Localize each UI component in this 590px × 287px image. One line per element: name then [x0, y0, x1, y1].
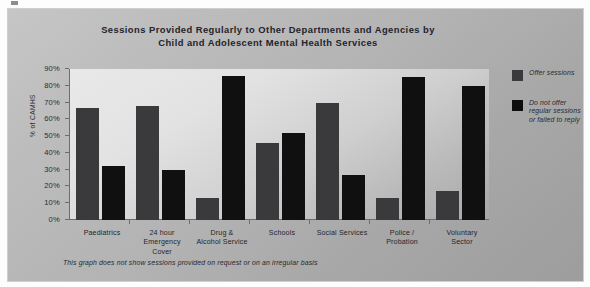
- bar-group: VoluntarySector: [429, 69, 489, 220]
- x-axis-tick: [189, 220, 190, 224]
- x-axis-category-label: VoluntarySector: [425, 229, 499, 248]
- legend-swatch-do-not-offer: [512, 100, 523, 111]
- y-axis-tick-label: 50%: [44, 131, 60, 140]
- legend-label-do-not-offer: Do not offer regular sessions or failed …: [529, 99, 584, 125]
- legend-swatch-offer-sessions: [512, 70, 523, 81]
- x-axis-category-label-line: Police /: [390, 229, 414, 237]
- legend-item-offer-sessions: Offer sessions: [512, 69, 584, 78]
- bar: [136, 106, 159, 220]
- y-axis-tick-label: 60%: [44, 114, 60, 123]
- x-axis-category-label-line: Emergency: [143, 238, 180, 246]
- bar-group: Social Services: [309, 69, 369, 220]
- chart-title-line-1: Sessions Provided Regularly to Other Dep…: [38, 23, 498, 36]
- x-axis-category-label-line: Schools: [269, 229, 295, 237]
- chart-frame: Sessions Provided Regularly to Other Dep…: [7, 8, 584, 282]
- y-axis-tick-label: 40%: [44, 147, 60, 156]
- y-axis-tick-label: 0%: [49, 215, 60, 224]
- x-axis-tick: [249, 220, 250, 224]
- bar-group: 24 hourEmergencyCover: [129, 69, 189, 220]
- chart-legend: Offer sessions Do not offer regular sess…: [512, 69, 584, 145]
- x-axis-category-label-line: Voluntary: [447, 229, 478, 237]
- bar: [282, 133, 305, 220]
- legend-label-line-2: regular sessions: [529, 107, 581, 114]
- legend-label-line-1: Do not offer: [529, 99, 566, 106]
- bar: [402, 77, 425, 220]
- bar: [462, 86, 485, 220]
- x-axis-category-label-line: Paediatrics: [84, 229, 121, 237]
- x-axis-category-label-line: 24 hour: [149, 229, 174, 237]
- bar-group: Drug &Alcohol Service: [189, 69, 249, 220]
- bar: [76, 108, 99, 220]
- y-axis-tick-label: 20%: [44, 181, 60, 190]
- bar: [162, 170, 185, 220]
- x-axis-category-label-line: Cover: [152, 248, 172, 256]
- scan-artifact-speck: [11, 1, 18, 5]
- bar: [102, 166, 125, 220]
- bar: [316, 103, 339, 220]
- bar: [222, 76, 245, 220]
- bar-group: Police /Probation: [369, 69, 429, 220]
- plot-area: 90%80%70%60%50%40%30%20%10%0% Paediatric…: [69, 69, 489, 220]
- y-axis-tick-label: 70%: [44, 97, 60, 106]
- x-axis-category-label-line: Alcohol Service: [196, 238, 247, 246]
- bar: [256, 143, 279, 220]
- y-axis-title: % of CAMHS: [29, 94, 36, 137]
- x-axis-tick: [129, 220, 130, 224]
- x-axis-tick: [309, 220, 310, 224]
- y-axis-tick-label: 30%: [44, 164, 60, 173]
- bar-group: Paediatrics: [69, 69, 129, 220]
- x-axis-category-label-line: Social Services: [317, 229, 368, 237]
- x-axis-category-label-line: Probation: [386, 238, 418, 246]
- legend-label-line-3: or failed to reply: [529, 116, 580, 123]
- bar: [436, 191, 459, 220]
- chart-footnote: This graph does not show sessions provid…: [63, 259, 318, 266]
- bar: [196, 198, 219, 220]
- x-axis-category-label-line: Sector: [451, 238, 472, 246]
- chart-title: Sessions Provided Regularly to Other Dep…: [38, 23, 498, 49]
- chart-title-line-2: Child and Adolescent Mental Health Servi…: [38, 36, 498, 49]
- y-axis-tick-label: 10%: [44, 198, 60, 207]
- bar: [342, 175, 365, 220]
- bar: [376, 198, 399, 220]
- y-axis-tick-label: 90%: [44, 64, 60, 73]
- legend-item-do-not-offer: Do not offer regular sessions or failed …: [512, 99, 584, 125]
- legend-label-offer-sessions: Offer sessions: [529, 69, 584, 78]
- y-axis-tick-label: 80%: [44, 80, 60, 89]
- x-axis-category-label-line: Drug &: [211, 229, 234, 237]
- x-axis-tick: [429, 220, 430, 224]
- x-axis-tick: [369, 220, 370, 224]
- chart-page: Sessions Provided Regularly to Other Dep…: [0, 0, 590, 287]
- bar-group: Schools: [249, 69, 309, 220]
